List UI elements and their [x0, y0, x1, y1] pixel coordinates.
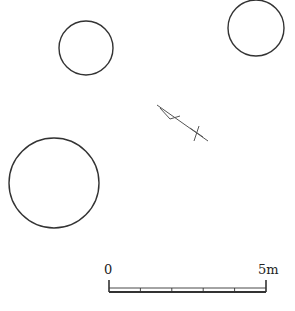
pit-2-circle: [228, 0, 284, 56]
scale-start-label: 0: [104, 263, 112, 276]
scale-bar: [109, 280, 266, 292]
pit-3-circle: [9, 138, 99, 228]
scale-end-label: 5m: [258, 263, 279, 276]
site-plan-canvas: [0, 0, 295, 311]
north-arrow-icon: [157, 105, 208, 141]
pit-1-circle: [59, 21, 113, 75]
